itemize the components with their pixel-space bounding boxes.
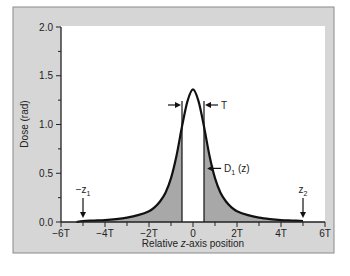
y-tick-label: 0.0 <box>39 217 53 228</box>
x-axis-title-suffix: -axis position <box>186 238 244 249</box>
x-axis-title: Relative z-axis position <box>142 238 244 249</box>
y-tick-label: 2.0 <box>39 22 53 33</box>
plot-area <box>61 26 325 222</box>
x-tick-label: 4T <box>275 228 287 239</box>
x-axis-title-prefix: Relative <box>142 238 181 249</box>
z1-marker-label-sub: 1 <box>86 190 90 197</box>
curve-label-main: D <box>224 163 231 174</box>
x-tick-label: 6T <box>319 228 331 239</box>
y-axis-title: Dose (rad) <box>19 100 30 147</box>
curve-label-suffix: (z) <box>235 163 249 174</box>
y-tick-label: 0.5 <box>39 168 53 179</box>
y-tick-label: 1.5 <box>39 70 53 81</box>
x-tick-label: −4T <box>96 228 114 239</box>
dose-profile-chart: 0.00.51.01.52.0−6T−4T−2T02T4T6T TD1 (z)−… <box>0 0 350 276</box>
z1-marker-label-main: −z <box>76 184 87 195</box>
x-tick-label: −6T <box>52 228 70 239</box>
slice-width-label: T <box>221 100 227 111</box>
y-tick-label: 1.0 <box>39 119 53 130</box>
z2-marker-label-sub: 2 <box>304 190 308 197</box>
